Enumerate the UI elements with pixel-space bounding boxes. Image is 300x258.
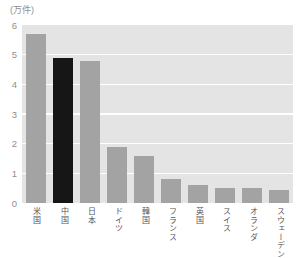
- x-label-slot: スウェーデン: [266, 207, 293, 258]
- y-axis-unit-label: (万件): [10, 6, 34, 15]
- y-tick-label: 1: [0, 169, 17, 179]
- y-axis: 0123456: [0, 25, 17, 203]
- x-label-slot: スイス: [212, 207, 239, 258]
- bar-slot: [212, 25, 239, 203]
- y-tick-label: 3: [0, 109, 17, 119]
- plot-area: [22, 25, 293, 203]
- bar-highlighted: [53, 58, 73, 203]
- bar: [269, 190, 289, 203]
- bar: [242, 188, 262, 203]
- bar-slot: [266, 25, 293, 203]
- bar-slot: [157, 25, 184, 203]
- x-tick-label: フランス: [167, 207, 176, 258]
- bar: [80, 61, 100, 203]
- bar-slot: [239, 25, 266, 203]
- x-label-slot: オランダ: [239, 207, 266, 258]
- y-tick-label: 0: [0, 198, 17, 208]
- bar: [188, 185, 208, 203]
- x-tick-label: 中国: [58, 207, 67, 258]
- bar-slot: [49, 25, 76, 203]
- bar-chart: (万件) 0123456 米国中国日本ドイツ韓国フランス英国スイスオランダスウェ…: [0, 0, 300, 258]
- bar: [134, 156, 154, 203]
- x-label-slot: 日本: [76, 207, 103, 258]
- bar: [215, 188, 235, 203]
- bar-slot: [185, 25, 212, 203]
- bar-slot: [130, 25, 157, 203]
- bar: [26, 34, 46, 203]
- y-tick-label: 6: [0, 20, 17, 30]
- x-label-slot: ドイツ: [103, 207, 130, 258]
- bar-slot: [103, 25, 130, 203]
- x-label-slot: 中国: [49, 207, 76, 258]
- x-label-slot: フランス: [157, 207, 184, 258]
- x-tick-label: スイス: [221, 207, 230, 258]
- x-tick-label: 日本: [85, 207, 94, 258]
- bar-slot: [22, 25, 49, 203]
- x-tick-label: 米国: [31, 207, 40, 258]
- bar: [107, 147, 127, 203]
- x-axis: 米国中国日本ドイツ韓国フランス英国スイスオランダスウェーデン: [22, 207, 293, 258]
- x-label-slot: 米国: [22, 207, 49, 258]
- bar-slot: [76, 25, 103, 203]
- x-tick-label: スウェーデン: [275, 207, 284, 258]
- x-label-slot: 英国: [185, 207, 212, 258]
- y-tick-label: 5: [0, 50, 17, 60]
- y-tick-label: 4: [0, 80, 17, 90]
- x-tick-label: 英国: [194, 207, 203, 258]
- x-tick-label: ドイツ: [112, 207, 121, 258]
- x-tick-label: オランダ: [248, 207, 257, 258]
- bars-group: [22, 25, 293, 203]
- x-tick-label: 韓国: [140, 207, 149, 258]
- y-tick-label: 2: [0, 139, 17, 149]
- bar: [161, 179, 181, 203]
- x-label-slot: 韓国: [130, 207, 157, 258]
